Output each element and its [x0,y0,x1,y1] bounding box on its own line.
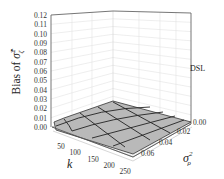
svg-text:Bias of σ̂2ζ: Bias of σ̂2ζ [9,48,25,94]
svg-text:0.03: 0.03 [34,95,47,104]
svg-text:0.00: 0.00 [193,118,206,127]
svg-text:0.04: 0.04 [34,86,47,95]
svg-text:0.07: 0.07 [34,58,47,67]
svg-text:0.02: 0.02 [34,104,47,113]
svg-text:150: 150 [87,155,99,164]
x-axis-label: k [67,157,73,171]
svg-text:0.04: 0.04 [159,138,172,147]
z-axis-ticks: 0.12 0.11 0.10 0.09 0.08 0.07 0.06 0.05 … [34,11,47,132]
svg-text:σ2ρ: σ2ρ [183,150,193,167]
method-label: DSL [190,64,205,73]
svg-text:0.06: 0.06 [141,149,154,158]
svg-text:0.05: 0.05 [34,76,47,85]
z-axis-label: Bias of σ̂2ζ [9,48,25,94]
svg-text:0.09: 0.09 [34,39,47,48]
svg-text:0.02: 0.02 [177,127,190,136]
svg-text:200: 200 [103,161,115,170]
svg-text:0.08: 0.08 [34,48,47,57]
svg-text:0.01: 0.01 [34,114,47,123]
svg-text:100: 100 [69,148,81,157]
svg-text:0.12: 0.12 [34,11,47,20]
svg-text:250: 250 [119,167,131,176]
svg-text:0.11: 0.11 [34,20,47,29]
y-axis-label: σ2ρ [183,150,193,167]
svg-text:0.00: 0.00 [34,123,47,132]
svg-text:50: 50 [57,142,65,151]
surface-chart: 0.12 0.11 0.10 0.09 0.08 0.07 0.06 0.05 … [0,0,224,179]
svg-text:0.10: 0.10 [34,30,47,39]
svg-text:0.06: 0.06 [34,67,47,76]
